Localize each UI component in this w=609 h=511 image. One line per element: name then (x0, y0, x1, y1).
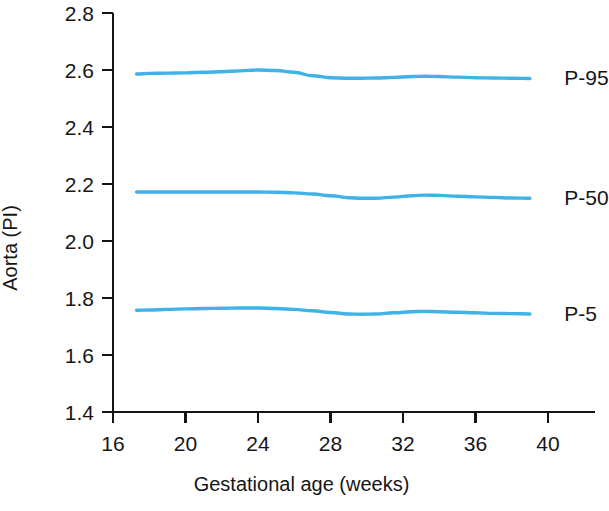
y-tick-label: 1.8 (20, 288, 94, 309)
y-tick-label: 2.8 (20, 3, 94, 24)
x-tick-label: 24 (246, 433, 269, 454)
series-label-p-50: P-50 (564, 186, 608, 207)
series-line-p-50 (137, 192, 530, 198)
series-line-p-5 (137, 308, 530, 314)
y-tick-label: 2.6 (20, 60, 94, 81)
x-tick-label: 28 (319, 433, 342, 454)
x-tick-label: 20 (174, 433, 197, 454)
y-tick-label: 2.2 (20, 174, 94, 195)
y-axis-title: Aorta (PI) (0, 205, 20, 291)
y-tick-label: 2.0 (20, 231, 94, 252)
x-tick-label: 36 (464, 433, 487, 454)
x-tick-label: 32 (391, 433, 414, 454)
y-tick-label: 2.4 (20, 117, 94, 138)
chart-series-lines (137, 70, 530, 314)
x-tick-label: 40 (536, 433, 559, 454)
y-tick-label: 1.6 (20, 345, 94, 366)
series-label-p-5: P-5 (564, 302, 597, 323)
series-label-p-95: P-95 (564, 67, 608, 88)
y-tick-label: 1.4 (20, 402, 94, 423)
series-line-p-95 (137, 70, 530, 79)
x-tick-label: 16 (101, 433, 124, 454)
x-axis-title: Gestational age (weeks) (0, 474, 603, 494)
